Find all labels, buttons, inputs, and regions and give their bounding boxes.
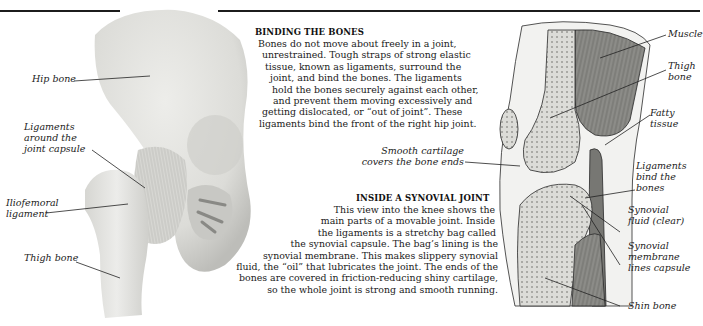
binding-line: getting dislocated, or “out of joint”. T… — [258, 106, 479, 117]
label-smooth-cartilage: Smooth cartilage covers the bone ends — [352, 145, 464, 167]
heading-binding-the-bones: BINDING THE BONES — [255, 27, 364, 37]
binding-line: and prevent them moving excessively and — [258, 95, 479, 106]
binding-line: unrestrained. Tough straps of strong ela… — [258, 49, 479, 60]
synovial-line: synovial membrane. This makes slippery s… — [230, 250, 498, 261]
label-synovial-membrane: Synovial membrane lines capsule — [628, 240, 690, 273]
label-fatty-tissue: Fatty tissue — [650, 107, 678, 129]
binding-line: tissue, known as ligaments, surround the — [258, 61, 479, 72]
label-ligaments-joint-capsule: Ligaments around the joint capsule — [24, 121, 85, 154]
binding-line: hold the bones securely against each oth… — [258, 84, 479, 95]
binding-line: Bones do not move about freely in a join… — [258, 38, 479, 49]
heading-inside-synovial-joint: INSIDE A SYNOVIAL JOINT — [356, 193, 489, 203]
synovial-line: so the whole joint is strong and smooth … — [230, 284, 498, 295]
label-shin-bone: Shin bone — [628, 300, 676, 311]
synovial-line: the ligaments is a stretchy bag called — [230, 227, 498, 238]
binding-line: ligaments bind the front of the right hi… — [258, 118, 479, 129]
label-synovial-fluid: Synovial fluid (clear) — [628, 204, 684, 226]
label-hip-bone: Hip bone — [32, 73, 76, 84]
label-thigh-bone-knee: Thigh bone — [668, 60, 696, 82]
binding-line: joint, and bind the bones. The ligaments — [258, 72, 479, 83]
paragraph-synovial-joint: This view into the knee shows the main p… — [230, 204, 498, 295]
paragraph-binding-the-bones: Bones do not move about freely in a join… — [258, 38, 479, 129]
label-ligaments-bind-bones: Ligaments bind the bones — [636, 160, 700, 193]
synovial-line: This view into the knee shows the — [230, 204, 498, 215]
label-thigh-bone-hip: Thigh bone — [24, 252, 78, 263]
synovial-line: bones are covered in friction-reducing s… — [230, 272, 498, 283]
hip-bone-illustration — [85, 10, 251, 318]
synovial-line: fluid, the “oil” that lubricates the joi… — [230, 261, 498, 272]
synovial-line: main parts of a movable joint. Inside — [230, 215, 498, 226]
label-muscle: Muscle — [668, 28, 703, 39]
label-iliofemoral-ligament: Iliofemoral ligament — [6, 197, 59, 219]
synovial-line: the synovial capsule. The bag’s lining i… — [230, 238, 498, 249]
